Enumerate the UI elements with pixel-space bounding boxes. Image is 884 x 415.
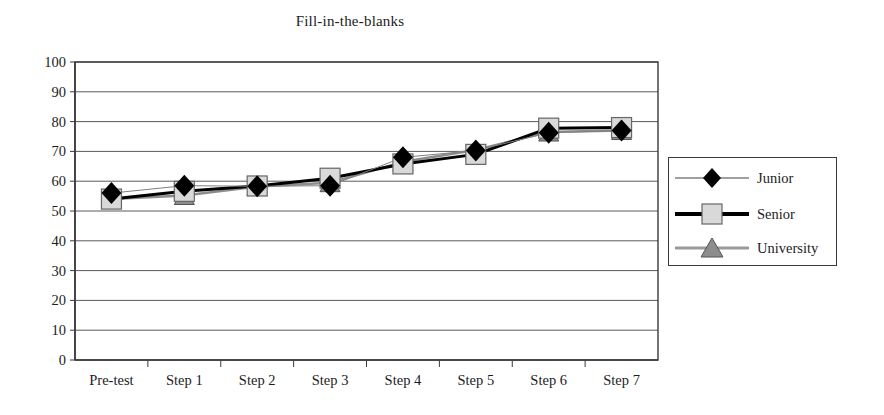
legend-swatch-senior — [669, 199, 755, 229]
svg-text:Step 5: Step 5 — [457, 372, 494, 388]
svg-text:10: 10 — [52, 322, 67, 338]
svg-text:Pre-test: Pre-test — [89, 372, 133, 388]
legend-label-junior: Junior — [755, 170, 793, 187]
svg-text:0: 0 — [59, 352, 66, 368]
svg-text:Step 6: Step 6 — [530, 372, 567, 388]
svg-text:40: 40 — [52, 233, 67, 249]
svg-text:20: 20 — [52, 292, 67, 308]
svg-text:80: 80 — [52, 114, 67, 130]
legend-swatch-junior — [669, 163, 755, 193]
legend-item-university: University — [669, 230, 836, 266]
x-axis-category-labels: Pre-testStep 1Step 2Step 3Step 4Step 5St… — [89, 372, 640, 388]
legend-item-senior: Senior — [669, 196, 836, 232]
x-axis-tick-marks — [148, 360, 585, 367]
svg-text:Step 1: Step 1 — [166, 372, 203, 388]
chart-container: Fill-in-the-blanks 010203040506070809010… — [0, 0, 884, 415]
svg-text:70: 70 — [52, 143, 67, 159]
svg-text:50: 50 — [52, 203, 67, 219]
legend-label-senior: Senior — [755, 206, 795, 223]
svg-text:Step 7: Step 7 — [603, 372, 640, 388]
legend-label-university: University — [755, 240, 818, 257]
svg-text:100: 100 — [44, 54, 66, 70]
legend-swatch-university — [669, 233, 755, 263]
svg-text:Step 4: Step 4 — [385, 372, 422, 388]
svg-text:Step 3: Step 3 — [312, 372, 349, 388]
y-axis-tick-labels: 0102030405060708090100 — [44, 54, 66, 368]
chart-legend: Junior Senior University — [668, 157, 837, 266]
series-markers — [101, 118, 631, 210]
svg-text:Step 2: Step 2 — [239, 372, 276, 388]
svg-text:90: 90 — [52, 84, 67, 100]
legend-item-junior: Junior — [669, 160, 836, 196]
gridlines — [70, 62, 658, 360]
svg-text:60: 60 — [52, 173, 67, 189]
svg-text:30: 30 — [52, 263, 67, 279]
